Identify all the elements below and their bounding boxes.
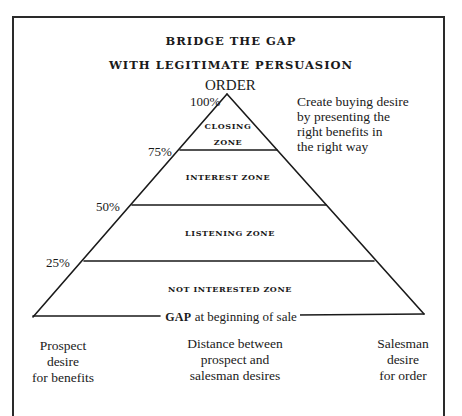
side-note-line: right benefits in <box>297 124 409 139</box>
footer-line: desire <box>368 352 438 368</box>
footer-line: Distance between <box>170 336 300 352</box>
footer-distance: Distance between prospect and salesman d… <box>170 336 300 384</box>
footer-line: desire <box>20 354 106 370</box>
zone-closing: CLOSING ZONE <box>190 121 266 147</box>
side-note: Create buying desire by presenting the r… <box>297 94 409 154</box>
zone-interest: INTEREST ZONE <box>150 172 306 182</box>
level-label-50: 50% <box>96 200 120 213</box>
footer-line: salesman desires <box>170 368 300 384</box>
gap-word: GAP <box>165 310 191 324</box>
gap-rest: at beginning of sale <box>191 309 296 324</box>
level-label-100: 100% <box>190 95 220 108</box>
footer-line: for benefits <box>20 370 106 386</box>
zone-not-interested: NOT INTERESTED ZONE <box>120 284 340 294</box>
level-label-25: 25% <box>46 256 70 269</box>
side-note-line: the right way <box>297 139 409 154</box>
footer-line: Prospect <box>20 338 106 354</box>
apex-label-order: ORDER <box>205 78 255 93</box>
gap-label: GAP at beginning of sale <box>0 309 462 325</box>
footer-prospect: Prospect desire for benefits <box>20 338 106 386</box>
footer-salesman: Salesman desire for order <box>368 336 438 384</box>
zone-closing-line1: CLOSING <box>190 121 266 131</box>
level-label-75: 75% <box>148 145 172 158</box>
footer-line: prospect and <box>170 352 300 368</box>
side-note-line: by presenting the <box>297 109 409 124</box>
footer-line: Salesman <box>368 336 438 352</box>
footer-line: for order <box>368 368 438 384</box>
zone-listening: LISTENING ZONE <box>130 228 330 238</box>
zone-closing-line2: ZONE <box>190 137 266 147</box>
side-note-line: Create buying desire <box>297 94 409 109</box>
